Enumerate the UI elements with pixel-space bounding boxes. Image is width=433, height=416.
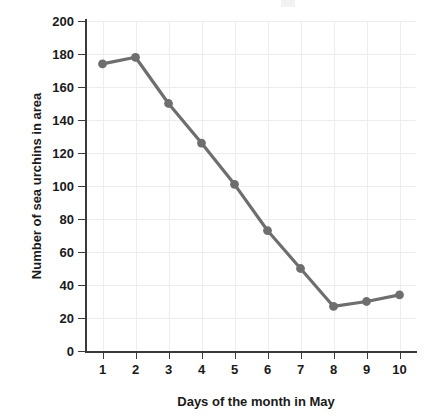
plot-area — [86, 21, 416, 351]
x-axis-tick-label: 8 — [319, 363, 349, 376]
gridline-vertical — [301, 21, 302, 351]
x-axis-tick-mark — [202, 352, 203, 359]
gridline-vertical — [169, 21, 170, 351]
y-axis-tick-mark — [78, 153, 86, 154]
y-axis-tick-mark — [78, 252, 86, 253]
y-axis-tick-label: 20 — [34, 312, 74, 325]
gridline-vertical — [268, 21, 269, 351]
y-axis-tick-mark — [78, 285, 86, 286]
y-axis-tick-mark — [78, 120, 86, 121]
x-axis-tick-label: 10 — [385, 363, 415, 376]
gridline-vertical — [136, 21, 137, 351]
y-axis-tick-mark — [78, 54, 86, 55]
x-axis-tick-mark — [301, 352, 302, 359]
y-axis-tick-label: 120 — [34, 147, 74, 160]
x-axis-tick-mark — [334, 352, 335, 359]
y-axis-tick-mark — [78, 186, 86, 187]
gridline-vertical — [235, 21, 236, 351]
x-axis-tick-mark — [235, 352, 236, 359]
x-axis-title: Days of the month in May — [86, 394, 426, 409]
y-axis-tick-label: 160 — [34, 81, 74, 94]
y-axis-tick-mark — [78, 219, 86, 220]
x-axis-tick-label: 2 — [121, 363, 151, 376]
y-axis-tick-labels: 020406080100120140160180200 — [28, 0, 74, 416]
x-axis-tick-label: 1 — [88, 363, 118, 376]
y-axis-tick-label: 60 — [34, 246, 74, 259]
y-axis-tick-label: 0 — [34, 345, 74, 358]
x-axis-tick-mark — [103, 352, 104, 359]
gridline-vertical — [103, 21, 104, 351]
top-edge-artifact — [281, 0, 295, 7]
x-axis-tick-mark — [136, 352, 137, 359]
x-axis-tick-mark — [268, 352, 269, 359]
x-axis-tick-label: 6 — [253, 363, 283, 376]
x-axis-tick-label: 9 — [352, 363, 382, 376]
x-axis-tick-label: 5 — [220, 363, 250, 376]
x-axis-tick-label: 4 — [187, 363, 217, 376]
line-chart: Number of sea urchins in area 0204060801… — [0, 0, 433, 416]
y-axis-tick-label: 100 — [34, 180, 74, 193]
y-axis-tick-mark — [78, 87, 86, 88]
x-axis-tick-mark — [169, 352, 170, 359]
gridline-vertical — [400, 21, 401, 351]
y-axis-tick-label: 180 — [34, 48, 74, 61]
y-axis-tick-label: 200 — [34, 15, 74, 28]
x-axis-tick-label: 7 — [286, 363, 316, 376]
y-axis-tick-mark — [78, 351, 86, 352]
y-axis-tick-label: 140 — [34, 114, 74, 127]
x-axis-tick-label: 3 — [154, 363, 184, 376]
gridline-vertical — [367, 21, 368, 351]
y-axis-tick-mark — [78, 318, 86, 319]
y-axis-tick-label: 80 — [34, 213, 74, 226]
y-axis-tick-mark — [78, 21, 86, 22]
gridline-vertical — [202, 21, 203, 351]
gridline-vertical — [334, 21, 335, 351]
x-axis-tick-mark — [400, 352, 401, 359]
y-axis-tick-label: 40 — [34, 279, 74, 292]
x-axis-tick-mark — [367, 352, 368, 359]
